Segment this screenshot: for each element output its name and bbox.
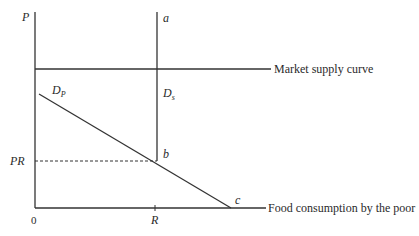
y-axis-label: P	[21, 10, 30, 24]
demand-curve-poor	[39, 94, 231, 208]
point-b-label: b	[163, 147, 169, 161]
point-a-label: a	[163, 11, 169, 25]
origin-label: 0	[31, 214, 37, 226]
ration-quantity-label: R	[150, 213, 159, 227]
demand-poor-label: DP	[51, 83, 66, 99]
diagram-canvas: P 0 Food consumption by the poor Market …	[0, 0, 419, 236]
point-c-label: c	[235, 193, 241, 207]
x-axis-label: Food consumption by the poor	[268, 201, 415, 215]
demand-subsidy-label: Ds	[162, 86, 175, 102]
price-ration-label: PR	[9, 154, 25, 168]
market-supply-label: Market supply curve	[274, 62, 373, 76]
